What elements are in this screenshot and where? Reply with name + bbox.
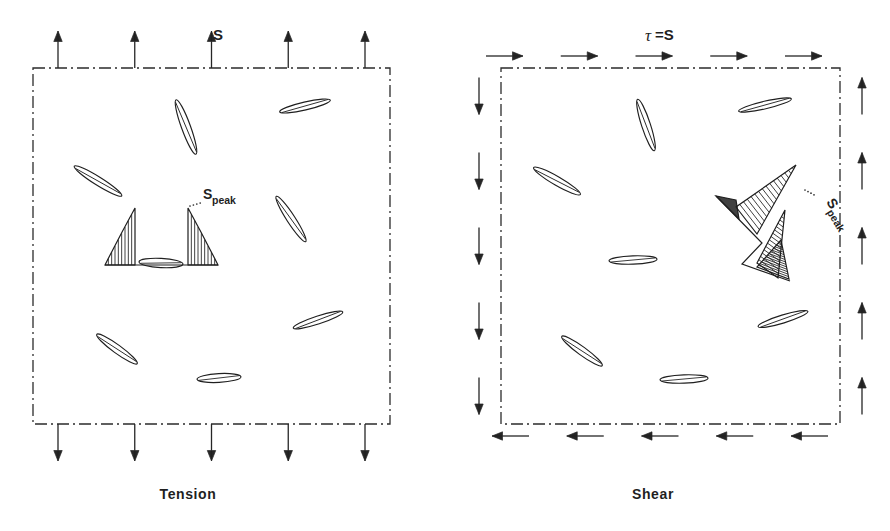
shear-lobe-upper-hatch-7 xyxy=(770,183,779,195)
shear-right-arrows xyxy=(858,78,866,415)
tau-symbol: τ xyxy=(645,26,652,45)
shear-bottom-arrows xyxy=(492,432,828,440)
shear-lobe-upper-hatch-1 xyxy=(792,168,793,170)
shear-lobe-upper-hatch-2 xyxy=(789,170,792,173)
tension-specimen-boundary xyxy=(33,68,390,424)
tension-peak-label: S peak xyxy=(203,186,236,206)
tension-flaws xyxy=(72,96,344,383)
shear-flaw-chord-4 xyxy=(760,311,807,327)
shear-stress-lobe xyxy=(716,165,796,281)
shear-top-arrows xyxy=(486,52,822,60)
shear-flaw-chord-0 xyxy=(740,98,789,112)
shear-lobe-lower-hatch-5 xyxy=(776,227,783,232)
tension-lobe-right-outline xyxy=(188,208,218,265)
stress-concentration-figure: S S peak Tension τ =S xyxy=(0,0,890,531)
shear-peak-leader xyxy=(804,189,815,196)
shear-leader-dot-0 xyxy=(804,189,806,191)
panel-tension: S S peak Tension xyxy=(33,26,390,502)
tension-lobe-left-outline xyxy=(105,208,135,265)
shear-caption: Shear xyxy=(632,486,674,502)
shear-lobe-upper-hatch-15 xyxy=(740,204,760,229)
shear-lobe-lower-hatch-4 xyxy=(778,223,783,227)
tension-flaw-chord-5 xyxy=(295,311,342,328)
shear-lobe-upper-hatch-11 xyxy=(755,194,769,213)
panel-shear: τ =S S peak Shear xyxy=(475,26,866,502)
shear-lobe-upper-hatch-9 xyxy=(762,189,774,204)
tension-leader-dot-1 xyxy=(193,204,195,206)
shear-flaws xyxy=(531,95,809,384)
tension-flaw-chord-1 xyxy=(176,101,197,153)
shear-load-label: τ =S xyxy=(645,26,674,45)
shear-lobe-lower-hatch-8 xyxy=(771,237,782,245)
tension-peak-label-sub: peak xyxy=(212,194,236,206)
shear-flaw-chord-1 xyxy=(637,101,655,150)
shear-lobe-upper-hatch-8 xyxy=(766,186,777,200)
tension-top-arrows xyxy=(54,31,369,68)
shear-left-arrows xyxy=(475,78,483,415)
shear-lobe-upper-hatch-5 xyxy=(777,178,784,186)
tension-bottom-arrows xyxy=(54,424,369,461)
shear-peak-label-sub: peak xyxy=(825,207,848,234)
tension-load-label: S xyxy=(213,26,223,43)
shear-leader-dot-2 xyxy=(810,192,812,194)
shear-lobe-lower-hatch-3 xyxy=(780,220,784,223)
tension-peak-leader xyxy=(189,202,201,207)
shear-load-equals-s: =S xyxy=(655,26,674,43)
shear-lobe-upper-hatch-14 xyxy=(744,202,762,226)
shear-lobe-upper-hatch-4 xyxy=(781,176,786,183)
tension-stress-lobe xyxy=(105,208,218,265)
tension-leader-dot-2 xyxy=(196,203,198,205)
tension-leader-dot-0 xyxy=(189,205,191,207)
shear-peak-label: S peak xyxy=(820,195,854,234)
tension-leader-dot-3 xyxy=(199,202,201,204)
tension-caption: Tension xyxy=(160,486,217,502)
shear-lobe-lower-b-hatch-11 xyxy=(765,259,787,267)
shear-lobe-lower-hatch-6 xyxy=(775,230,783,236)
shear-specimen-boundary xyxy=(501,68,840,424)
shear-leader-dot-1 xyxy=(807,191,809,193)
tension-peak-label-main: S xyxy=(203,186,212,202)
figure-root: S S peak Tension τ =S xyxy=(0,0,890,531)
shear-lobe-upper-hatch-10 xyxy=(759,191,772,208)
shear-lobe-upper-hatch-3 xyxy=(785,173,789,178)
shear-leader-dot-3 xyxy=(813,194,815,196)
